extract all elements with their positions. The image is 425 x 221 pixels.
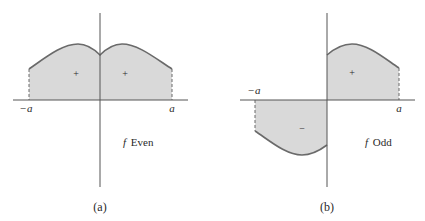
odd-function-kind: Odd	[373, 136, 392, 148]
odd-shaded-area-negative	[255, 100, 327, 155]
panel-even: −a a + + f Even (a)	[13, 13, 188, 214]
even-label-neg-a: −a	[20, 102, 33, 114]
odd-function-symbol: f	[365, 136, 370, 148]
even-function-label: f Even	[123, 136, 154, 148]
odd-label-pos-a: a	[396, 102, 402, 114]
odd-sign-negative: −	[299, 123, 305, 134]
panel-odd: −a a + − f Odd (b)	[240, 13, 415, 214]
odd-shaded-area-positive	[327, 44, 399, 100]
odd-function-label: f Odd	[365, 136, 392, 148]
even-function-kind: Even	[131, 136, 154, 148]
even-sign-right: +	[122, 68, 128, 79]
even-sign-left: +	[73, 68, 79, 79]
odd-sign-positive: +	[349, 67, 355, 78]
odd-caption: (b)	[320, 200, 334, 214]
even-label-pos-a: a	[169, 102, 175, 114]
even-function-symbol: f	[123, 136, 128, 148]
even-odd-function-diagram: −a a + + f Even (a) −a a + − f Odd (b)	[0, 0, 425, 221]
odd-label-neg-a: −a	[248, 84, 261, 96]
even-caption: (a)	[93, 200, 106, 214]
